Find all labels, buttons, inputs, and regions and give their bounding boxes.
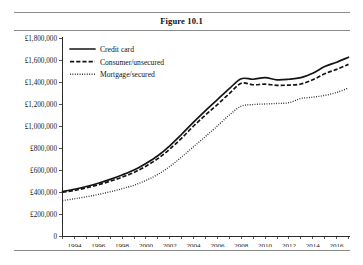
legend-label: Consumer/unsecured	[100, 58, 164, 67]
x-tick-label: 2010	[258, 242, 273, 248]
figure-block: Figure 10.1 0£200,000£400,000£600,000£80…	[0, 0, 363, 265]
legend-label: Mortgage/secured	[100, 70, 155, 79]
y-tick-label: £1,800,000	[25, 35, 58, 43]
figure-bottom-rule	[14, 250, 350, 251]
line-chart: 0£200,000£400,000£600,000£800,000£1,000,…	[0, 31, 363, 247]
series-line	[63, 64, 349, 192]
y-tick-label: £800,000	[30, 145, 57, 153]
y-tick-label: £1,000,000	[25, 123, 58, 131]
x-tick-label: 2006	[210, 242, 225, 248]
x-tick-label: 1994	[67, 242, 82, 248]
x-tick-label: 2012	[282, 242, 297, 248]
x-tick-label: 2008	[234, 242, 249, 248]
y-tick-label: £1,400,000	[25, 79, 58, 87]
x-axis-ticks: 1994199619982000200220042006200820102012…	[63, 236, 349, 247]
figure-title: Figure 10.1	[0, 15, 363, 27]
y-tick-label: 0	[53, 233, 57, 241]
x-tick-label: 1998	[115, 242, 130, 248]
y-tick-label: £400,000	[30, 189, 57, 197]
y-tick-label: £1,600,000	[25, 57, 58, 65]
y-axis-ticks: 0£200,000£400,000£600,000£800,000£1,000,…	[25, 35, 63, 241]
x-tick-label: 2000	[139, 242, 154, 248]
figure-top-rule	[14, 12, 350, 13]
y-tick-label: £1,200,000	[25, 101, 58, 109]
x-tick-label: 2016	[330, 242, 345, 248]
x-tick-label: 2004	[187, 242, 202, 248]
x-tick-label: 2002	[163, 242, 178, 248]
chart-plot-area: 0£200,000£400,000£600,000£800,000£1,000,…	[0, 31, 363, 247]
legend-label: Credit card	[100, 45, 134, 54]
y-tick-label: £600,000	[30, 167, 57, 175]
chart-legend: Credit cardConsumer/unsecuredMortgage/se…	[70, 45, 164, 79]
x-tick-label: 2014	[306, 242, 321, 248]
x-tick-label: 1996	[91, 242, 106, 248]
series-line	[63, 88, 349, 201]
y-tick-label: £200,000	[30, 211, 57, 219]
